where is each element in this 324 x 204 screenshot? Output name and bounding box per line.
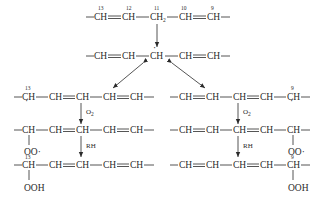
atom: CH — [130, 92, 143, 102]
atom: CH — [233, 160, 246, 170]
atom: CH — [260, 125, 273, 135]
right-branch: CH CH CH CH CH 9 · O 2 CH CH CH CH CH OO… — [170, 85, 310, 193]
peroxidation-diagram: CH 13 CH 12 CH 2 11 CH 10 CH 9 CH CH CH … — [0, 0, 324, 204]
row-1-substrate: CH 13 CH 12 CH 2 11 CH 10 CH 9 — [86, 5, 230, 23]
atom: CH — [260, 92, 273, 102]
atom-c13: CH — [22, 92, 35, 102]
left-branch: CH 13 · CH CH CH CH O 2 CH CH CH CH CH O… — [14, 85, 154, 193]
hydroperoxide-group: OOH — [288, 183, 309, 193]
atom: CH — [76, 160, 89, 170]
atom: CH — [206, 160, 219, 170]
radical-dot: · — [25, 96, 28, 106]
atom: CH — [130, 160, 143, 170]
atom-c9: CH — [207, 12, 220, 22]
atom: CH — [179, 51, 192, 61]
atom: CH — [49, 125, 62, 135]
num-c9: 9 — [291, 85, 294, 91]
atom: CH — [49, 92, 62, 102]
atom-c9: CH — [287, 160, 300, 170]
atom: CH — [206, 125, 219, 135]
atom: CH — [287, 125, 300, 135]
num-c11: 11 — [154, 5, 160, 11]
num-c13: 13 — [98, 5, 104, 11]
atom: CH — [76, 92, 89, 102]
atom-c9: CH — [287, 92, 300, 102]
atom: CH — [179, 160, 192, 170]
radical-dot: · — [290, 96, 293, 106]
num-c13: 13 — [25, 154, 31, 160]
atom: CH — [22, 125, 35, 135]
atom: CH — [179, 125, 192, 135]
c11-subscript: 2 — [163, 17, 166, 23]
arrow-resonance-left — [113, 63, 143, 88]
atom-c11: CH — [150, 12, 163, 22]
atom: CH — [49, 160, 62, 170]
atom: CH — [103, 92, 116, 102]
atom-c13: CH — [94, 12, 107, 22]
num-c12: 12 — [126, 5, 132, 11]
atom: CH — [94, 51, 107, 61]
atom: CH — [207, 51, 220, 61]
atom-c13: CH — [22, 160, 35, 170]
atom: CH — [130, 125, 143, 135]
num-c10: 10 — [181, 5, 187, 11]
reagent-rh: RH — [86, 142, 96, 150]
atom: CH — [103, 125, 116, 135]
atom: CH — [233, 125, 246, 135]
radical-center: CH — [150, 51, 163, 61]
atom-c10: CH — [179, 12, 192, 22]
atom: CH — [76, 125, 89, 135]
atom: CH — [122, 51, 135, 61]
atom: CH — [260, 160, 273, 170]
num-c9: 9 — [211, 5, 214, 11]
arrow-resonance-right — [172, 63, 205, 88]
reagent-o2-sub: 2 — [248, 111, 251, 117]
atom: CH — [179, 92, 192, 102]
reagent-o2-sub: 2 — [91, 111, 94, 117]
row-2-radical: CH CH CH · CH CH — [86, 43, 230, 61]
hydroperoxide-group: OOH — [24, 183, 45, 193]
num-c13: 13 — [25, 85, 31, 91]
atom: CH — [233, 92, 246, 102]
atom: CH — [103, 160, 116, 170]
num-c9: 9 — [291, 154, 294, 160]
atom: CH — [206, 92, 219, 102]
reagent-rh: RH — [243, 142, 253, 150]
radical-dot: · — [153, 43, 156, 53]
atom-c12: CH — [122, 12, 135, 22]
